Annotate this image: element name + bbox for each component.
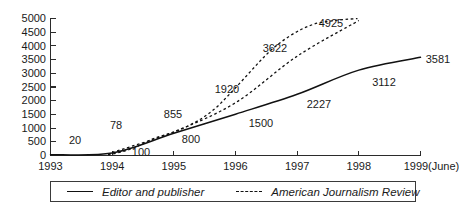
y-tick-marks [51,19,56,156]
y-tick-label: 1000 [22,122,46,134]
data-label: 3112 [372,76,396,88]
y-tick-label: 5000 [22,12,46,24]
data-label: 20 [69,134,81,146]
data-label: 3622 [263,42,287,54]
x-tick-label-june: (June) [428,160,459,172]
x-tick-label: 1998 [347,160,371,172]
data-label: 4925 [319,17,343,29]
x-tick-label: 1999 [404,160,428,172]
chart-legend: Editor and publisher American Journalism… [50,181,416,202]
data-label: 3581 [426,53,450,65]
data-label: 855 [164,108,182,120]
y-tick-label: 2500 [22,81,46,93]
y-tick-label: 500 [28,135,46,147]
data-point-labels: 20 78 100 855 800 1920 1500 3622 2227 49… [69,17,450,158]
dashed-line-swatch-icon [236,186,262,197]
data-label: 78 [110,119,122,131]
y-tick-label: 4500 [22,26,46,38]
x-tick-label: 1994 [100,160,124,172]
x-tick-marks [51,151,421,156]
legend-entry-editor-and-publisher: Editor and publisher [67,186,204,198]
x-tick-label: 1993 [38,160,62,172]
data-label: 2227 [307,98,331,110]
y-axis-labels: 0 500 1000 1500 2000 2500 3000 3500 4000… [22,12,46,161]
solid-line-swatch-icon [67,186,93,197]
x-tick-label: 1995 [162,160,186,172]
x-tick-label: 1997 [285,160,309,172]
y-tick-label: 4000 [22,40,46,52]
series-line-editor-and-publisher [51,57,421,155]
x-tick-label: 1996 [223,160,247,172]
y-tick-label: 1500 [22,108,46,120]
x-axis-labels: 1993 1994 1995 1996 1997 1998 1999 (June… [38,160,459,172]
legend-label: Editor and publisher [102,186,204,198]
line-chart: 0 500 1000 1500 2000 2500 3000 3500 4000… [0,0,459,212]
data-label: 1500 [249,117,273,129]
y-tick-label: 2000 [22,94,46,106]
y-tick-label: 3000 [22,67,46,79]
legend-entry-american-journalism-review: American Journalism Review [236,186,419,198]
data-label: 800 [182,133,200,145]
y-tick-label: 3500 [22,53,46,65]
data-label: 1920 [215,83,239,95]
legend-label: American Journalism Review [271,186,419,198]
